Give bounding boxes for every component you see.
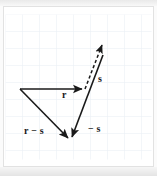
vector-layer [5, 14, 152, 160]
frame-bottom-edge [0, 167, 157, 176]
vector-label-r: r [62, 90, 67, 100]
vector-label-r-minus-s: r − s [24, 126, 44, 136]
plot-area: r r − s − s s [5, 14, 152, 160]
vector-diagram-figure: r r − s − s s [0, 0, 157, 176]
vector-label-minus-s: − s [88, 124, 101, 134]
vector-label-s: s [98, 74, 102, 84]
